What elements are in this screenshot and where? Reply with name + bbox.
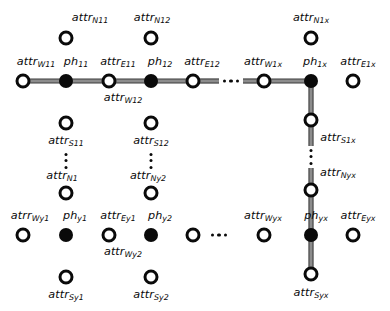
node-attr-ey1 — [102, 228, 117, 243]
node-attr-wyx — [257, 228, 272, 243]
ellipsis-dot — [217, 233, 220, 236]
label-base: attr — [104, 245, 125, 258]
ellipsis-horiz — [223, 79, 239, 82]
ellipsis-dot — [224, 233, 227, 236]
node-attr-s11 — [59, 116, 74, 131]
label-base: attr — [244, 209, 265, 222]
label-attr-sy2: attrSy2 — [133, 289, 168, 300]
label-base: ph — [64, 55, 78, 68]
label-subscript: W12 — [124, 97, 142, 106]
label-subscript: Nyx — [341, 172, 356, 181]
node-attr-e1x — [346, 74, 361, 89]
label-base: attr — [320, 131, 341, 144]
label-ph-12: ph12 — [148, 56, 172, 67]
label-subscript: Syx — [314, 292, 328, 301]
label-subscript: Wyx — [265, 215, 282, 224]
node-ph-y2 — [144, 228, 158, 242]
label-subscript: y1 — [77, 215, 87, 224]
label-subscript: 1x — [317, 61, 327, 70]
ellipsis-dot — [150, 153, 153, 156]
ellipsis-dot — [310, 156, 313, 159]
node-attr-sy1 — [59, 270, 74, 285]
node-attr-s1x — [304, 113, 319, 128]
label-base: attr — [244, 55, 265, 68]
label-base: attr — [184, 55, 205, 68]
ellipsis-dot — [211, 233, 214, 236]
label-ph-1x: ph1x — [303, 56, 327, 67]
node-ph-y1 — [59, 228, 73, 242]
label-subscript: Wy2 — [125, 251, 143, 260]
label-base: attr — [100, 55, 121, 68]
label-subscript: Ny2 — [151, 175, 167, 184]
label-subscript: E1x — [361, 61, 376, 70]
node-ph-12 — [144, 74, 158, 88]
node-attr-e-y2 — [186, 228, 201, 243]
label-subscript: yx — [319, 215, 328, 224]
label-attr-s12: attrS12 — [133, 135, 169, 146]
label-ph-yx: phyx — [304, 210, 328, 221]
node-attr-n11 — [59, 31, 74, 46]
label-base: attr — [340, 55, 361, 68]
node-attr-ny2 — [144, 186, 159, 201]
label-base: attr — [133, 134, 154, 147]
label-atrr-wy1: atrrWy1 — [11, 210, 49, 221]
ellipsis-vert — [310, 149, 313, 165]
label-subscript: S11 — [69, 140, 84, 149]
label-base: ph — [148, 55, 162, 68]
label-subscript: E12 — [205, 61, 220, 70]
node-attr-e12 — [186, 74, 201, 89]
label-base: ph — [304, 209, 318, 222]
label-subscript: Wy1 — [32, 215, 50, 224]
label-subscript: W1x — [265, 61, 283, 70]
ellipsis-dot — [310, 149, 313, 152]
label-attr-n1x: attrN1x — [293, 12, 329, 23]
label-attr-nyx: attrNyx — [320, 167, 356, 178]
label-base: attr — [294, 286, 315, 299]
label-attr-ny2: attrNy2 — [130, 170, 166, 181]
label-attr-syx: attrSyx — [294, 287, 329, 298]
node-attr-n1 — [59, 186, 74, 201]
node-ph-1x — [304, 74, 318, 88]
label-subscript: S1x — [341, 137, 356, 146]
ellipsis-dot — [223, 79, 226, 82]
label-subscript: Sy2 — [154, 294, 169, 303]
topology-diagram: attrW11ph11attrE11attrW12ph12attrE12attr… — [0, 0, 390, 311]
label-base: ph — [303, 55, 317, 68]
node-attr-e11 — [102, 74, 117, 89]
node-attr-n1x — [304, 31, 319, 46]
ellipsis-dot — [236, 79, 239, 82]
label-base: attr — [48, 134, 69, 147]
node-attr-syx — [304, 267, 319, 282]
ellipsis-dot — [65, 166, 68, 169]
label-attr-ey1: attrEy1 — [100, 210, 135, 221]
label-subscript: N1 — [67, 175, 78, 184]
label-subscript: E11 — [121, 61, 136, 70]
label-base: attr — [133, 288, 154, 301]
label-subscript: W11 — [37, 61, 55, 70]
node-attr-nyx — [304, 183, 319, 198]
label-ph-y1: phy1 — [63, 210, 87, 221]
label-subscript: 12 — [162, 61, 172, 70]
label-attr-w11: attrW11 — [17, 56, 55, 67]
node-attr-w1x — [257, 74, 272, 89]
node-atrr-wy1 — [16, 228, 31, 243]
label-attr-s11: attrS11 — [48, 135, 84, 146]
label-subscript: Ey1 — [121, 215, 136, 224]
label-base: atrr — [11, 209, 32, 222]
ellipsis-dot — [65, 153, 68, 156]
ellipsis-horiz — [211, 233, 227, 236]
label-subscript: Sy1 — [69, 294, 84, 303]
label-base: attr — [100, 209, 121, 222]
label-attr-n12: attrN12 — [134, 12, 171, 23]
label-attr-sy1: attrSy1 — [48, 289, 83, 300]
label-base: attr — [17, 55, 38, 68]
label-base: attr — [46, 169, 67, 182]
label-base: attr — [130, 169, 151, 182]
ellipsis-vert — [65, 153, 68, 169]
ellipsis-dot — [150, 160, 153, 163]
edge-layer — [0, 0, 390, 311]
label-subscript: Eyx — [361, 215, 375, 224]
label-subscript: N11 — [92, 17, 108, 26]
label-subscript: N1x — [314, 17, 330, 26]
label-base: attr — [341, 209, 362, 222]
